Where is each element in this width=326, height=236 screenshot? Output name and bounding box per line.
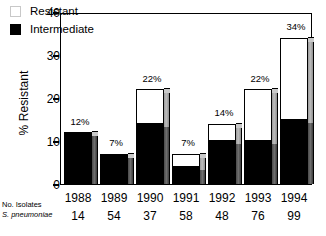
bar-top-face-1993 <box>272 88 278 93</box>
bar-group: 12%7%22%7%14%22%34% <box>61 14 311 184</box>
bar-side-resistant-1992 <box>236 128 242 144</box>
isolate-row-label-line2: S. pneumoniae <box>2 210 62 220</box>
x-tick-label-1990: 1990 <box>132 191 168 205</box>
y-tick-mark-20 <box>53 98 59 100</box>
bar-top-face-1989 <box>128 153 134 158</box>
x-axis-category-row: 1988198919901991199219931994 <box>60 191 312 205</box>
isolate-count-1994: 99 <box>276 209 312 223</box>
isolate-count-1993: 76 <box>240 209 276 223</box>
bar-segment-intermediate-1989 <box>100 154 128 184</box>
y-tick-mark-30 <box>53 55 59 57</box>
bar-segment-resistant-1991 <box>172 154 200 167</box>
isolate-row-label-line1: No. Isolates <box>2 200 62 210</box>
bar-segment-intermediate-1992 <box>208 141 236 184</box>
isolate-count-1992: 48 <box>204 209 240 223</box>
bar-segment-resistant-1994 <box>280 38 308 120</box>
bar-side-intermediate-1991 <box>200 170 206 184</box>
x-tick-label-1991: 1991 <box>168 191 204 205</box>
bar-side-intermediate-1994 <box>308 123 314 185</box>
bar-1992: 14% <box>208 14 236 184</box>
isolate-count-1988: 14 <box>60 209 96 223</box>
bar-side-resistant-1993 <box>272 93 278 144</box>
bar-side-intermediate-1989 <box>128 157 134 184</box>
x-tick-label-1988: 1988 <box>60 191 96 205</box>
bar-side-intermediate-1993 <box>272 144 278 184</box>
bar-1994: 34% <box>280 14 308 184</box>
open-square-icon <box>10 6 21 17</box>
bar-side-resistant-1991 <box>200 158 206 170</box>
bar-top-face-1992 <box>236 123 242 128</box>
chart-figure: % Resistant 010203040 12%7%22%7%14%22%34… <box>0 0 326 236</box>
legend-item-resistant: Resistant <box>10 6 94 18</box>
isolate-count-1991: 58 <box>168 209 204 223</box>
bar-1993: 22% <box>244 14 272 184</box>
legend-label-resistant: Resistant <box>30 6 78 18</box>
bar-segment-resistant-1990 <box>136 89 164 123</box>
bar-segment-resistant-1992 <box>208 124 236 141</box>
bar-top-face-1994 <box>308 37 314 42</box>
bar-1989: 7% <box>100 14 128 184</box>
bar-value-label-1994: 34% <box>266 22 326 32</box>
x-tick-label-1994: 1994 <box>276 191 312 205</box>
bar-side-resistant-1990 <box>164 93 170 126</box>
isolate-count-1989: 54 <box>96 209 132 223</box>
plot-area: 12%7%22%7%14%22%34% <box>60 13 312 185</box>
x-tick-label-1989: 1989 <box>96 191 132 205</box>
y-tick-mark-10 <box>53 141 59 143</box>
bar-top-face-1988 <box>92 131 98 136</box>
bar-side-resistant-1994 <box>308 42 314 123</box>
filled-square-icon <box>10 24 21 35</box>
legend-item-intermediate: Intermediate <box>10 24 94 36</box>
isolate-row-label: No. Isolates S. pneumoniae <box>2 200 62 219</box>
bar-segment-intermediate-1994 <box>280 120 308 185</box>
bar-1991: 7% <box>172 14 200 184</box>
bar-side-intermediate-1990 <box>164 127 170 184</box>
bar-top-face-1991 <box>200 153 206 158</box>
chart-legend: Resistant Intermediate <box>10 6 94 41</box>
isolate-count-row: 14543758487699 <box>60 209 312 223</box>
legend-label-intermediate: Intermediate <box>30 24 94 36</box>
x-tick-label-1993: 1993 <box>240 191 276 205</box>
bar-segment-resistant-1993 <box>244 89 272 141</box>
bar-segment-intermediate-1993 <box>244 141 272 184</box>
isolate-count-1990: 37 <box>132 209 168 223</box>
bar-segment-intermediate-1990 <box>136 124 164 184</box>
x-tick-label-1992: 1992 <box>204 191 240 205</box>
y-tick-mark-0 <box>53 184 59 186</box>
bar-1990: 22% <box>136 14 164 184</box>
bar-top-face-1990 <box>164 88 170 93</box>
bar-side-intermediate-1992 <box>236 144 242 184</box>
bar-segment-intermediate-1991 <box>172 167 200 184</box>
